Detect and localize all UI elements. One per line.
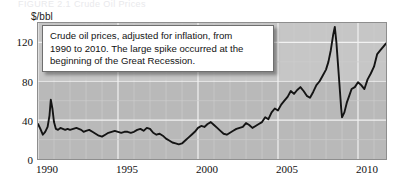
y-tick-label-1: 40 xyxy=(9,115,33,127)
x-tick-label-1995: 1995 xyxy=(106,163,148,175)
x-tick-label-1990: 1990 xyxy=(26,163,68,175)
x-tick-label-2010: 2010 xyxy=(346,163,388,175)
y-tick-label-2: 80 xyxy=(9,76,33,88)
callout-line-3: beginning of the Great Recession. xyxy=(50,55,267,68)
y-tick-label-3: 120 xyxy=(9,36,33,48)
x-tick-label-2000: 2000 xyxy=(186,163,228,175)
callout-line-2: 1990 to 2010. The large spike occurred a… xyxy=(50,43,267,56)
callout-line-1: Crude oil prices, adjusted for inflation… xyxy=(50,30,267,43)
annotation-callout-box: Crude oil prices, adjusted for inflation… xyxy=(42,25,274,72)
figure-root: FIGURE 2.1 Crude Oil Prices $/bbl 0 40 8… xyxy=(0,0,405,190)
x-tick-label-2005: 2005 xyxy=(266,163,308,175)
cut-off-caption-remnant: FIGURE 2.1 Crude Oil Prices xyxy=(18,0,348,7)
y-axis-unit-label: $/bbl xyxy=(31,11,53,22)
